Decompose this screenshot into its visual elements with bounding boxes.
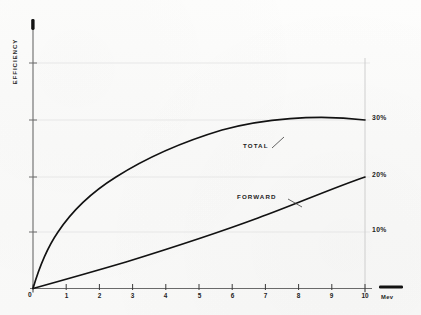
x-tick-label-8: 8 <box>294 292 303 299</box>
x-tick-label-3: 3 <box>128 292 137 299</box>
y-tick-label-10: 10% <box>372 226 387 233</box>
unit-marker-dash <box>379 285 403 288</box>
gridlines-horizontal <box>33 63 370 232</box>
chart-page: EFFICIENCY 30% 20% 10% TOTAL FORWARD 0 1… <box>0 0 421 315</box>
x-tick-label-7: 7 <box>261 292 270 299</box>
y-axis-cap <box>31 19 34 30</box>
y-axis-title: EFFICIENCY <box>11 31 18 93</box>
y-tick-label-30: 30% <box>372 114 387 121</box>
y-tick-label-20: 20% <box>372 171 387 178</box>
leader-line-total <box>272 137 284 148</box>
x-tick-label-2: 2 <box>95 292 104 299</box>
x-tick-label-6: 6 <box>228 292 237 299</box>
y-axis-title-text: EFFICIENCY <box>11 39 18 85</box>
x-tick-label-5: 5 <box>195 292 204 299</box>
x-tick-label-0: 0 <box>28 291 32 298</box>
curve-forward <box>33 177 365 289</box>
curve-label-total: TOTAL <box>243 142 269 149</box>
curve-label-forward: FORWARD <box>237 193 277 200</box>
x-tick-label-4: 4 <box>161 292 170 299</box>
x-tick-label-10: 10 <box>358 292 372 299</box>
x-tick-label-1: 1 <box>62 292 71 299</box>
x-axis-unit-label: Mev <box>381 294 393 300</box>
curve-total <box>33 117 365 288</box>
x-tick-label-9: 9 <box>327 292 336 299</box>
chart-canvas <box>0 0 421 315</box>
